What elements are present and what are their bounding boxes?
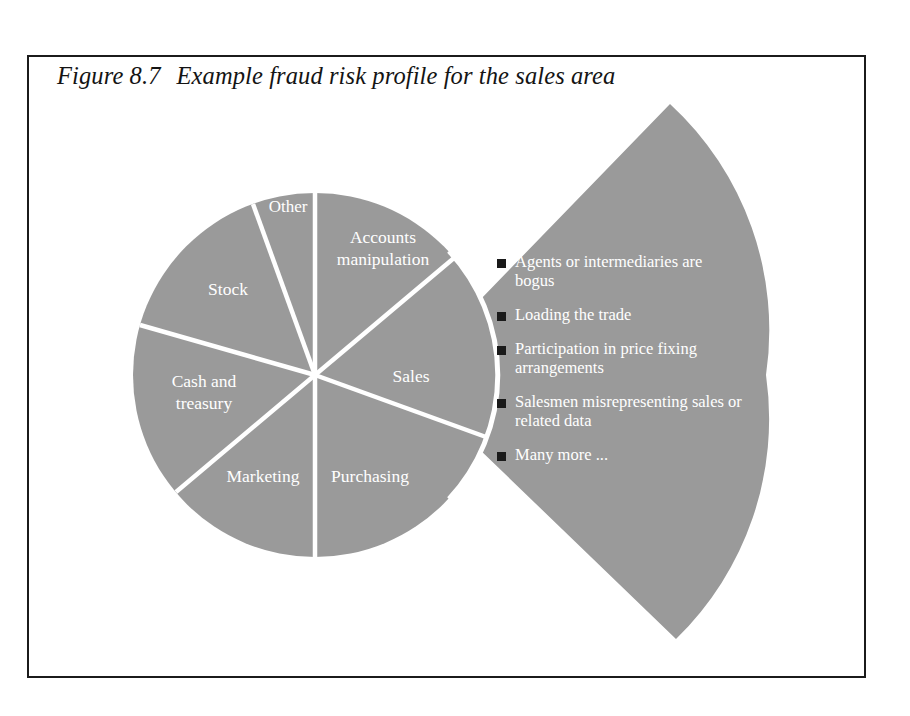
list-item-label: Participation in price fixing arrangemen…	[515, 339, 745, 377]
figure-number: Figure 8.7	[57, 62, 161, 89]
list-item: Loading the trade	[497, 305, 759, 324]
list-item-label: Salesmen misrepresenting sales or relate…	[515, 392, 745, 430]
list-item-label: Agents or intermediaries are bogus	[515, 252, 745, 290]
figure-root: Figure 8.7Example fraud risk profile for…	[0, 0, 910, 716]
list-item-label: Many more ...	[515, 445, 608, 464]
figure-title: Figure 8.7Example fraud risk profile for…	[57, 62, 797, 90]
bullet-square-icon	[497, 346, 506, 355]
list-item: Participation in price fixing arrangemen…	[497, 339, 759, 377]
list-item: Salesmen misrepresenting sales or relate…	[497, 392, 759, 430]
list-item: Agents or intermediaries are bogus	[497, 252, 759, 290]
list-item-label: Loading the trade	[515, 305, 631, 324]
sales-risk-list: Agents or intermediaries are bogus Loadi…	[497, 252, 759, 479]
bullet-square-icon	[497, 399, 506, 408]
bullet-square-icon	[497, 259, 506, 268]
list-item: Many more ...	[497, 445, 759, 464]
figure-caption: Example fraud risk profile for the sales…	[177, 62, 616, 89]
bullet-square-icon	[497, 312, 506, 321]
bullet-square-icon	[497, 452, 506, 461]
